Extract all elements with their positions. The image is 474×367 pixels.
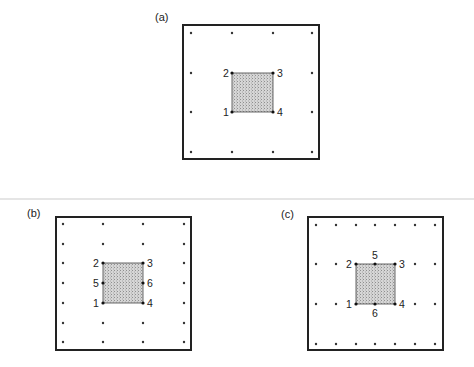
grid-point	[414, 303, 416, 305]
grid-point	[355, 224, 357, 226]
panel-a: (a) 1234	[155, 11, 319, 159]
element-node	[101, 281, 104, 284]
node-label: 3	[277, 67, 283, 79]
node-label: 6	[372, 307, 378, 319]
grid-point	[394, 224, 396, 226]
element-node	[141, 261, 144, 264]
grid-point	[62, 223, 64, 225]
grid-point	[183, 322, 185, 324]
grid-point	[434, 263, 436, 265]
grid-point	[62, 282, 64, 284]
grid-point	[355, 343, 357, 345]
panel-b: (b) 123456	[27, 207, 191, 350]
grid-point	[335, 343, 337, 345]
element-node	[373, 262, 376, 265]
node-label: 1	[93, 297, 99, 309]
grid-point	[335, 224, 337, 226]
grid-point	[374, 343, 376, 345]
grid-point	[142, 223, 144, 225]
grid-point	[183, 223, 185, 225]
grid-point	[434, 343, 436, 345]
shaded-element	[232, 73, 273, 112]
grid-point	[231, 151, 233, 153]
grid-point	[102, 322, 104, 324]
node-label: 2	[223, 67, 229, 79]
node-label: 4	[277, 106, 283, 118]
grid-point	[62, 262, 64, 264]
element-node	[354, 262, 357, 265]
element-node	[230, 71, 233, 74]
grid-point	[102, 341, 104, 343]
node-label: 3	[399, 258, 405, 270]
node-label: 2	[93, 257, 99, 269]
grid-point	[374, 224, 376, 226]
grid-point	[183, 262, 185, 264]
grid-point	[102, 243, 104, 245]
node-label: 2	[346, 258, 352, 270]
grid-point	[190, 32, 192, 34]
element-node	[101, 301, 104, 304]
grid-point	[311, 111, 313, 113]
grid-point	[272, 151, 274, 153]
shaded-element	[356, 264, 395, 304]
node-label: 4	[399, 298, 405, 310]
grid-point	[183, 243, 185, 245]
element-node	[101, 261, 104, 264]
panel-label: (c)	[281, 208, 294, 220]
node-label: 6	[147, 277, 153, 289]
node-label: 5	[93, 277, 99, 289]
grid-point	[183, 282, 185, 284]
element-node	[393, 302, 396, 305]
grid-point	[62, 243, 64, 245]
grid-point	[190, 72, 192, 74]
grid-point	[190, 151, 192, 153]
node-label: 1	[223, 106, 229, 118]
element-node	[393, 262, 396, 265]
node-label: 4	[147, 297, 153, 309]
grid-point	[62, 322, 64, 324]
grid-point	[231, 32, 233, 34]
grid-point	[183, 341, 185, 343]
grid-point	[190, 111, 192, 113]
grid-point	[142, 322, 144, 324]
grid-point	[311, 32, 313, 34]
shaded-element	[103, 263, 143, 303]
grid-point	[414, 224, 416, 226]
finite-element-mesh-figure: (a) 1234 (b) 123456 (c) 123456	[0, 0, 474, 367]
element-node	[271, 71, 274, 74]
node-label: 1	[346, 298, 352, 310]
grid-point	[311, 72, 313, 74]
grid-point	[335, 263, 337, 265]
grid-point	[183, 302, 185, 304]
grid-point	[434, 224, 436, 226]
grid-point	[414, 343, 416, 345]
panel-c: (c) 123456	[281, 208, 443, 350]
grid-point	[434, 303, 436, 305]
panel-label: (b)	[27, 207, 40, 219]
element-node	[141, 301, 144, 304]
node-label: 5	[372, 249, 378, 261]
node-label: 3	[147, 257, 153, 269]
grid-point	[311, 151, 313, 153]
grid-point	[315, 263, 317, 265]
grid-point	[394, 343, 396, 345]
grid-point	[315, 224, 317, 226]
grid-point	[315, 343, 317, 345]
element-node	[230, 110, 233, 113]
element-node	[354, 302, 357, 305]
element-node	[141, 281, 144, 284]
panel-label: (a)	[155, 11, 168, 23]
grid-point	[272, 32, 274, 34]
grid-point	[62, 302, 64, 304]
element-node	[373, 302, 376, 305]
grid-point	[142, 243, 144, 245]
grid-point	[414, 263, 416, 265]
grid-point	[335, 303, 337, 305]
grid-point	[62, 341, 64, 343]
grid-point	[315, 303, 317, 305]
grid-point	[102, 223, 104, 225]
element-node	[271, 110, 274, 113]
grid-point	[142, 341, 144, 343]
